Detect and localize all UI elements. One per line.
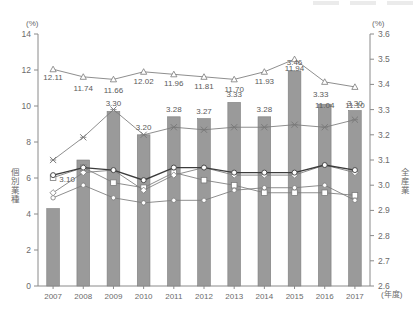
marker-circle-icon xyxy=(232,170,237,175)
bar xyxy=(77,160,90,286)
marker-cross-icon xyxy=(80,134,86,140)
marker-diamond-icon xyxy=(50,190,56,196)
left-axis-tick-label: 8 xyxy=(26,137,31,147)
x-axis-year-label: 2016 xyxy=(316,292,334,301)
data-label-cross: 3.33 xyxy=(313,90,329,99)
marker-open-circle-icon xyxy=(232,188,236,192)
marker-square-icon xyxy=(231,182,237,188)
chart-svg: (%) (%) 個別業種 全産業 024681012142.62.72.82.9… xyxy=(0,0,417,320)
x-axis-year-label: 2011 xyxy=(165,292,183,301)
right-axis-unit: (%) xyxy=(372,19,385,28)
data-label-triangle: 11.93 xyxy=(255,77,275,86)
bar xyxy=(47,209,60,286)
left-axis-tick-label: 12 xyxy=(22,65,32,75)
marker-open-circle-icon xyxy=(81,183,85,187)
data-label-cross: 3.30 xyxy=(347,99,363,108)
marker-circle-icon xyxy=(202,165,207,170)
bar xyxy=(228,102,241,286)
x-axis-year-label: 2010 xyxy=(135,292,153,301)
x-axis-year-label: 2017 xyxy=(346,292,364,301)
marker-circle-icon xyxy=(111,168,116,173)
marker-open-circle-icon xyxy=(262,186,266,190)
right-axis-tick-label: 3.4 xyxy=(378,79,390,89)
x-axis-year-label: 2015 xyxy=(286,292,304,301)
marker-open-circle-icon xyxy=(323,183,327,187)
x-axis-year-label: 2012 xyxy=(195,292,213,301)
data-label-cross: 3.27 xyxy=(196,107,212,116)
marker-circle-icon xyxy=(262,170,267,175)
right-axis-tick-label: 3.0 xyxy=(378,180,390,190)
data-label-triangle: 11.81 xyxy=(194,82,214,91)
marker-triangle-icon xyxy=(141,69,147,75)
marker-circle-icon xyxy=(352,168,357,173)
marker-open-circle-icon xyxy=(353,198,357,202)
marker-circle-icon xyxy=(81,165,86,170)
marker-triangle-icon xyxy=(50,66,56,72)
marker-cross-icon xyxy=(50,157,56,163)
marker-square-icon xyxy=(292,190,298,196)
left-axis-tick-label: 2 xyxy=(26,245,31,255)
marker-open-circle-icon xyxy=(141,201,145,205)
marker-open-circle-icon xyxy=(202,198,206,202)
marker-open-circle-icon xyxy=(292,186,296,190)
x-axis-year-label: 2013 xyxy=(225,292,243,301)
data-label-cross: 3.30 xyxy=(106,99,122,108)
data-label-cross: 3.28 xyxy=(166,105,182,114)
marker-square-icon xyxy=(201,177,207,183)
bar xyxy=(258,117,271,286)
marker-open-circle-icon xyxy=(172,198,176,202)
right-axis-tick-label: 2.7 xyxy=(378,256,390,266)
marker-open-circle-icon xyxy=(51,196,55,200)
marker-square-icon xyxy=(262,190,268,196)
data-label-triangle: 12.11 xyxy=(43,73,63,82)
marker-circle-icon xyxy=(171,165,176,170)
right-axis-tick-label: 2.8 xyxy=(378,231,390,241)
data-label-triangle: 11.04 xyxy=(315,101,335,110)
bar xyxy=(137,135,150,286)
marker-square-icon xyxy=(322,190,328,196)
left-axis-tick-label: 14 xyxy=(22,29,32,39)
data-label-cross: 3.28 xyxy=(257,105,273,114)
x-axis-unit: (年度) xyxy=(381,289,403,299)
right-axis-tick-label: 3.5 xyxy=(378,54,390,64)
data-label-cross: 3.46 xyxy=(287,58,303,67)
data-label-triangle: 12.02 xyxy=(134,77,155,86)
left-axis-title: 個別業種 xyxy=(9,167,19,204)
plot-area: 024681012142.62.72.82.93.03.13.23.33.43.… xyxy=(22,29,391,301)
x-axis-year-label: 2014 xyxy=(255,292,273,301)
data-label-cross: 3.10 xyxy=(59,175,75,184)
marker-square-icon xyxy=(111,180,117,186)
marker-circle-icon xyxy=(141,178,146,183)
marker-square-icon xyxy=(352,192,358,198)
marker-circle-icon xyxy=(292,170,297,175)
right-axis-tick-label: 3.1 xyxy=(378,155,390,165)
marker-triangle-icon xyxy=(322,79,328,85)
data-label-triangle: 11.66 xyxy=(104,86,124,95)
x-axis-year-label: 2008 xyxy=(74,292,92,301)
left-axis-tick-label: 4 xyxy=(26,209,31,219)
x-axis-year-label: 2007 xyxy=(44,292,62,301)
left-axis-tick-label: 10 xyxy=(22,101,32,111)
right-axis-tick-label: 2.9 xyxy=(378,205,390,215)
data-label-cross: 3.33 xyxy=(226,90,242,99)
marker-triangle-icon xyxy=(261,69,267,75)
marker-open-circle-icon xyxy=(111,196,115,200)
data-label-triangle: 11.96 xyxy=(164,79,184,88)
data-label-triangle: 11.74 xyxy=(74,84,94,93)
left-axis-tick-label: 0 xyxy=(26,281,31,291)
right-axis-tick-label: 3.6 xyxy=(378,29,390,39)
right-axis-title: 全産業 xyxy=(399,167,409,195)
marker-circle-icon xyxy=(322,163,327,168)
right-axis-tick-label: 3.3 xyxy=(378,105,390,115)
right-axis-tick-label: 3.2 xyxy=(378,130,390,140)
left-axis-tick-label: 6 xyxy=(26,173,31,183)
x-axis-year-label: 2009 xyxy=(105,292,123,301)
left-axis-unit: (%) xyxy=(26,19,39,28)
chart-container: (%) (%) 個別業種 全産業 024681012142.62.72.82.9… xyxy=(0,0,417,320)
data-label-cross: 3.20 xyxy=(136,123,152,132)
marker-circle-icon xyxy=(51,173,56,178)
